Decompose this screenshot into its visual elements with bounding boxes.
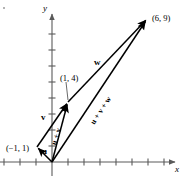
vector-addition-figure: y x (−1, 1) (1, 4) (6, 9) u v u + v w u … (0, 0, 184, 176)
vector-w-arrow (68, 20, 146, 102)
vector-label-u: u (42, 147, 47, 156)
point-label-neg1-1: (−1, 1) (6, 144, 29, 153)
vector-label-w: w (94, 58, 101, 67)
x-axis (0, 159, 175, 166)
vector-u-plus-v-plus-w-arrow (52, 22, 145, 163)
x-axis-label: x (175, 165, 179, 174)
point-label-1-4: (1, 4) (60, 74, 78, 83)
vector-label-v: v (41, 113, 46, 122)
y-axis-label: y (43, 4, 47, 13)
leader-line-point-1-4 (66, 82, 68, 100)
point-label-6-9: (6, 9) (152, 14, 170, 23)
